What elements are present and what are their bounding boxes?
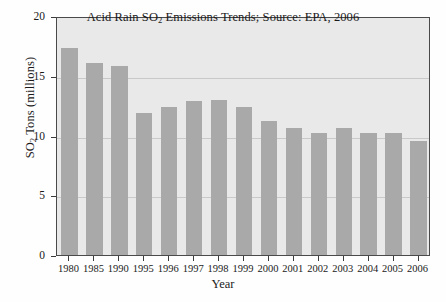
y-axis-title: SO2 Tons (millions) <box>23 18 38 198</box>
y-tick-label: 15 <box>19 71 45 83</box>
plot-area <box>56 17 430 256</box>
chart-title-text-before: Acid Rain SO <box>87 10 158 24</box>
bar <box>161 107 177 255</box>
bar <box>311 133 327 255</box>
x-tick-mark <box>318 256 319 261</box>
x-tick-mark <box>168 256 169 261</box>
chart-title: Acid Rain SO2 Emissions Trends; Source: … <box>0 10 446 25</box>
x-tick-mark <box>268 256 269 261</box>
x-tick-mark <box>218 256 219 261</box>
x-tick-mark <box>193 256 194 261</box>
chart-figure: SO2 Tons (millions) 05101520 Acid Rain S… <box>0 0 446 302</box>
x-tick-label: 2006 <box>398 264 438 275</box>
bar <box>236 107 252 255</box>
y-axis-title-text-before: SO <box>23 142 37 158</box>
bar <box>111 66 127 255</box>
chart-title-subscript: 2 <box>158 15 162 25</box>
y-tick-label: 0 <box>19 250 45 262</box>
y-tick-label: 10 <box>19 131 45 143</box>
x-tick-mark <box>68 256 69 261</box>
bar <box>61 48 77 255</box>
bar <box>186 101 202 255</box>
y-tick-label: 5 <box>19 190 45 202</box>
x-tick-mark <box>93 256 94 261</box>
x-tick-mark <box>343 256 344 261</box>
x-tick-mark <box>418 256 419 261</box>
bar <box>286 128 302 255</box>
bars-layer <box>57 18 429 255</box>
bar <box>385 133 401 255</box>
bar <box>410 141 426 255</box>
bar <box>261 121 277 255</box>
x-tick-mark <box>368 256 369 261</box>
x-tick-mark <box>293 256 294 261</box>
x-tick-mark <box>143 256 144 261</box>
x-axis-title: Year <box>0 277 446 292</box>
x-tick-mark <box>393 256 394 261</box>
x-tick-mark <box>243 256 244 261</box>
bar <box>86 63 102 255</box>
y-tick-mark <box>51 256 56 257</box>
bar <box>211 100 227 255</box>
bar <box>360 133 376 255</box>
bar <box>136 113 152 255</box>
bar <box>336 128 352 255</box>
x-tick-mark <box>118 256 119 261</box>
chart-title-text-after: Emissions Trends; Source: EPA, 2006 <box>162 10 359 24</box>
y-axis-title-text-after: Tons (millions) <box>23 57 37 138</box>
